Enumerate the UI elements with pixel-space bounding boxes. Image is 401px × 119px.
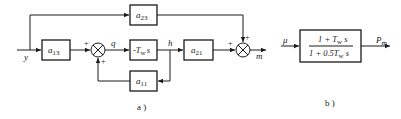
signal-label-h: h (168, 38, 173, 48)
caption-a: a ) (137, 102, 146, 112)
output-label-pm: Pm (375, 35, 388, 47)
signal-label-q: q (111, 38, 116, 48)
diagram-b: μ 1 + Tw s 1 + 0.5Tw s Pm b ) (281, 30, 390, 108)
summer2-sign-left: + (228, 39, 233, 48)
summer1-sign-bottom: + (101, 57, 106, 66)
summing-junction-2 (236, 43, 250, 57)
summer2-sign-top: + (245, 33, 250, 42)
input-label-mu: μ (282, 35, 288, 45)
caption-b: b ) (325, 98, 335, 108)
summing-junction-1 (91, 43, 105, 57)
diagram-a: y a23 a13 + q -Tws h a11 (17, 5, 266, 112)
block-diagrams: y a23 a13 + q -Tws h a11 (0, 0, 401, 119)
output-label-m: m (256, 51, 263, 61)
summer1-sign-left: + (84, 39, 89, 48)
h-feedback-line (158, 50, 170, 81)
input-label-y: y (23, 52, 28, 62)
